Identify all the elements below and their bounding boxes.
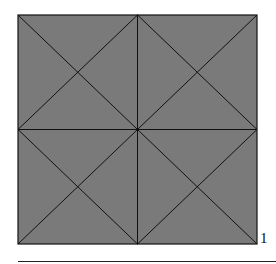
grid-lines: [18, 15, 257, 244]
horizontal-rule: [18, 261, 276, 262]
corner-label: 1: [260, 231, 268, 246]
subdivided-square-diagram: [0, 0, 276, 264]
